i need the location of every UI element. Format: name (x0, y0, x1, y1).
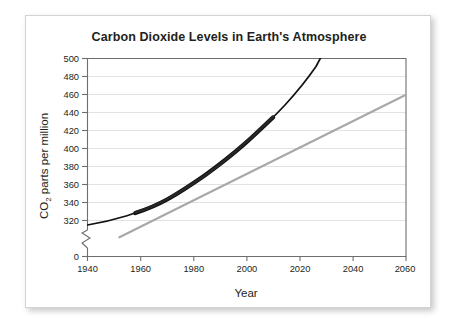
chart-card: Carbon Dioxide Levels in Earth's Atmosph… (25, 15, 431, 308)
y-tick-labels: 500 480 460 440 420 400 380 360 340 320 … (63, 54, 79, 262)
chart-plot-area: 500 480 460 440 420 400 380 360 340 320 … (26, 16, 432, 309)
x-tick-label: 2000 (237, 264, 258, 274)
y-tick-label: 400 (63, 144, 79, 154)
y-tick-label: 440 (63, 108, 79, 118)
y-tick-label: 500 (63, 54, 79, 64)
plot-frame (87, 59, 406, 257)
y-tick-label: 340 (63, 198, 79, 208)
x-tick-label: 2020 (290, 264, 311, 274)
measured-data-band (135, 117, 273, 213)
y-tick-label: 320 (63, 216, 79, 226)
svg-text:CO2 parts per million: CO2 parts per million (38, 113, 53, 219)
y-tick-label: 360 (63, 180, 79, 190)
x-tick-label: 1960 (130, 264, 151, 274)
axis-break-zigzag (82, 230, 90, 248)
y-axis-title-rest: parts per million (38, 113, 50, 197)
x-tick-label: 1980 (183, 264, 204, 274)
y-axis-title-main: CO (38, 202, 50, 219)
x-tick-label: 1940 (77, 264, 98, 274)
y-tick-marks (82, 59, 87, 257)
x-tick-label: 2040 (343, 264, 364, 274)
y-tick-label: 0 (74, 252, 79, 262)
x-tick-labels: 1940 1960 1980 2000 2020 2040 2060 (77, 264, 415, 274)
x-axis-title: Year (234, 287, 257, 299)
measured-data-noise (135, 117, 273, 212)
y-tick-label: 380 (63, 162, 79, 172)
y-tick-label: 460 (63, 90, 79, 100)
x-tick-label: 2060 (395, 264, 416, 274)
y-tick-label: 480 (63, 72, 79, 82)
y-tick-label: 420 (63, 126, 79, 136)
carbon-dioxide-curve (88, 58, 321, 225)
screenshot-root: Carbon Dioxide Levels in Earth's Atmosph… (0, 0, 457, 331)
x-tick-marks (88, 257, 407, 262)
y-axis-title: CO2 parts per million (38, 113, 53, 219)
